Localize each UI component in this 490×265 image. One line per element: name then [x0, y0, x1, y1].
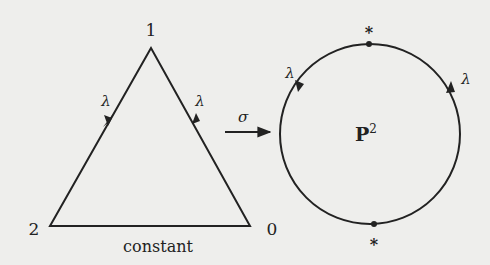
right-arc-lambda-label: λ: [460, 70, 471, 88]
sigma-label: σ: [238, 108, 249, 126]
left-edge-lambda-label: λ: [100, 92, 111, 110]
vertex-2-label: 2: [29, 219, 40, 239]
projective-plane-circle: * * λ λ P2: [280, 23, 471, 254]
diagram-canvas: 1 2 0 λ λ constant σ * * λ λ P2: [0, 0, 490, 265]
left-arc-arrowhead-icon: [295, 80, 304, 92]
vertex-0-label: 0: [267, 219, 278, 239]
bottom-edge-constant-label: constant: [123, 237, 193, 256]
sigma-map: σ: [225, 108, 270, 132]
bottom-point-dot-icon: [371, 221, 377, 227]
triangle-outline: [50, 48, 250, 226]
p2-superscript: 2: [369, 122, 377, 136]
top-star-label: *: [365, 23, 374, 42]
left-arc-lambda-label: λ: [284, 64, 295, 82]
p2-base: P: [355, 123, 369, 145]
p2-label: P2: [355, 122, 377, 145]
vertex-1-label: 1: [146, 20, 157, 40]
right-edge-lambda-label: λ: [194, 92, 205, 110]
triangle: 1 2 0 λ λ constant: [29, 20, 278, 256]
bottom-star-label: *: [370, 235, 379, 254]
right-edge-arrowhead-icon: [192, 113, 200, 124]
